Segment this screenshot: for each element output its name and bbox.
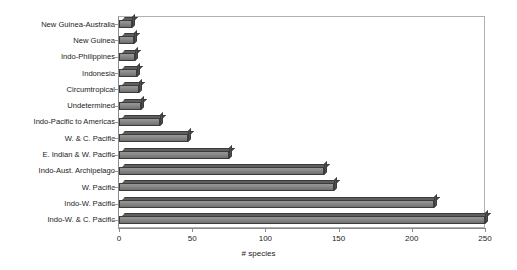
x-tick-mark xyxy=(192,228,193,232)
bar xyxy=(119,99,141,110)
category-label: Indo-Pacific to Americas xyxy=(0,117,115,126)
bar-side-face xyxy=(229,145,232,159)
category-tick xyxy=(113,155,118,156)
bar-front-face xyxy=(119,216,485,224)
x-tick-label: 250 xyxy=(478,234,491,243)
bar-front-face xyxy=(119,102,141,110)
bar-side-face xyxy=(134,30,137,44)
bar-row: Indo-W. Pacific xyxy=(0,195,517,211)
bar-row: Indo-Aust. Archipelago xyxy=(0,163,517,179)
category-label: Indo-Philippines xyxy=(0,52,115,61)
category-tick xyxy=(113,24,118,25)
bar-front-face xyxy=(119,151,229,159)
category-tick xyxy=(113,73,118,74)
category-tick xyxy=(113,171,118,172)
bar-side-face xyxy=(137,63,140,77)
bar-front-face xyxy=(119,69,137,77)
bar xyxy=(119,148,229,159)
bar xyxy=(119,197,434,208)
bar-front-face xyxy=(119,134,188,142)
category-tick xyxy=(113,204,118,205)
category-label: Indonesia xyxy=(0,69,115,78)
bar-side-face xyxy=(324,161,327,175)
bar-row: W. & C. Pacific xyxy=(0,130,517,146)
bar-front-face xyxy=(119,200,434,208)
bar-front-face xyxy=(119,36,134,44)
bar-row: Indo-Philippines xyxy=(0,49,517,65)
bar-row: Circumtropical xyxy=(0,81,517,97)
x-tick-label: 0 xyxy=(117,234,121,243)
bar xyxy=(119,66,137,77)
category-tick xyxy=(113,187,118,188)
bar-row: Indonesia xyxy=(0,65,517,81)
category-label: W. & C. Pacific xyxy=(0,134,115,143)
bar-row: Indo-W. & C. Pacific xyxy=(0,212,517,228)
bar xyxy=(119,50,135,61)
bar xyxy=(119,131,188,142)
bar-side-face xyxy=(434,194,437,208)
category-tick xyxy=(113,220,118,221)
bar-side-face xyxy=(141,96,144,110)
bar-row: Indo-Pacific to Americas xyxy=(0,114,517,130)
category-label: Undetermined xyxy=(0,101,115,110)
bar xyxy=(119,33,134,44)
category-tick xyxy=(113,106,118,107)
bar-front-face xyxy=(119,20,132,28)
bar-chart: New Guinea-AustraliaNew GuineaIndo-Phili… xyxy=(0,0,517,270)
bar-side-face xyxy=(135,47,138,61)
bar xyxy=(119,17,132,28)
bar-front-face xyxy=(119,85,139,93)
bar-side-face xyxy=(485,210,488,224)
bar-row: E. Indian & W. Pacific xyxy=(0,146,517,162)
x-tick-label: 150 xyxy=(332,234,345,243)
bar xyxy=(119,115,160,126)
category-label: New Guinea xyxy=(0,36,115,45)
bar-row: Undetermined xyxy=(0,98,517,114)
category-label: Indo-W. & C. Pacific xyxy=(0,215,115,224)
category-tick xyxy=(113,89,118,90)
bar-side-face xyxy=(160,112,163,126)
bar xyxy=(119,164,324,175)
bar-side-face xyxy=(188,128,191,142)
bar xyxy=(119,213,485,224)
x-tick-mark xyxy=(412,228,413,232)
bar-row: W. Pacific xyxy=(0,179,517,195)
x-axis-title: # species xyxy=(0,249,517,258)
bar-front-face xyxy=(119,53,135,61)
x-tick-mark xyxy=(339,228,340,232)
bar xyxy=(119,82,139,93)
bar-side-face xyxy=(334,177,337,191)
bar-row: New Guinea-Australia xyxy=(0,16,517,32)
category-label: New Guinea-Australia xyxy=(0,20,115,29)
category-label: Indo-W. Pacific xyxy=(0,199,115,208)
bar-side-face xyxy=(132,14,135,28)
category-label: Indo-Aust. Archipelago xyxy=(0,166,115,175)
bar xyxy=(119,180,334,191)
category-label: Circumtropical xyxy=(0,85,115,94)
x-tick-label: 100 xyxy=(259,234,272,243)
x-axis-line xyxy=(118,228,486,229)
x-tick-mark xyxy=(485,228,486,232)
bar-row: New Guinea xyxy=(0,32,517,48)
category-label: E. Indian & W. Pacific xyxy=(0,150,115,159)
x-tick-label: 50 xyxy=(188,234,197,243)
category-tick xyxy=(113,122,118,123)
category-tick xyxy=(113,40,118,41)
bar-rows: New Guinea-AustraliaNew GuineaIndo-Phili… xyxy=(0,16,517,228)
x-tick-label: 200 xyxy=(405,234,418,243)
x-tick-mark xyxy=(265,228,266,232)
category-label: W. Pacific xyxy=(0,183,115,192)
category-tick xyxy=(113,138,118,139)
x-tick-mark xyxy=(119,228,120,232)
bar-front-face xyxy=(119,183,334,191)
bar-front-face xyxy=(119,118,160,126)
category-tick xyxy=(113,57,118,58)
bar-front-face xyxy=(119,167,324,175)
